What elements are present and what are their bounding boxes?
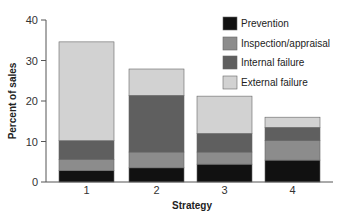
legend-swatch [223, 56, 237, 69]
x-ticks: 1234 [83, 184, 295, 196]
bar-segment-prevention [197, 164, 252, 182]
bar-strategy-2 [129, 69, 184, 182]
bar-segment-prevention [59, 171, 114, 182]
bar-segment-internal-failure [59, 141, 114, 160]
bar-strategy-4 [265, 117, 320, 182]
y-tick-label: 10 [26, 136, 38, 148]
x-axis-title: Strategy [172, 200, 212, 211]
bar-segment-external-failure [59, 42, 114, 141]
y-tick-label: 20 [26, 95, 38, 107]
bar-segment-prevention [265, 160, 320, 182]
legend-label: Internal failure [241, 57, 305, 68]
x-tick-label: 4 [289, 184, 295, 196]
bar-segment-inspection-appraisal [197, 152, 252, 164]
stacked-bar-chart: 010203040 1234 Percent of sales Strategy… [0, 0, 341, 220]
bar-segment-external-failure [265, 117, 320, 127]
legend-swatch [223, 76, 237, 89]
bar-segment-prevention [129, 168, 184, 182]
bar-segment-external-failure [129, 69, 184, 95]
x-tick-label: 2 [153, 184, 159, 196]
legend-swatch [223, 17, 237, 30]
bar-segment-inspection-appraisal [59, 159, 114, 170]
legend-label: Prevention [241, 18, 289, 29]
y-tick-label: 40 [26, 14, 38, 26]
legend: PreventionInspection/appraisalInternal f… [223, 17, 330, 89]
y-axis-title: Percent of sales [7, 62, 18, 139]
bar-segment-inspection-appraisal [265, 141, 320, 160]
bar-segment-internal-failure [129, 95, 184, 152]
x-tick-label: 3 [221, 184, 227, 196]
bar-segment-internal-failure [197, 133, 252, 152]
bar-strategy-1 [59, 42, 114, 182]
legend-label: External failure [241, 77, 308, 88]
y-tick-label: 30 [26, 55, 38, 67]
legend-swatch [223, 37, 237, 50]
bar-segment-external-failure [197, 96, 252, 133]
y-tick-label: 0 [32, 176, 38, 188]
bar-strategy-3 [197, 96, 252, 182]
legend-label: Inspection/appraisal [241, 38, 330, 49]
y-ticks: 010203040 [26, 14, 46, 188]
x-tick-label: 1 [83, 184, 89, 196]
bar-segment-internal-failure [265, 127, 320, 140]
bar-segment-inspection-appraisal [129, 152, 184, 168]
